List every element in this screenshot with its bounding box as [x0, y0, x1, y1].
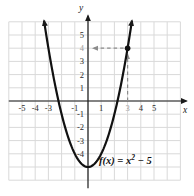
- y-tick-label: 5: [80, 30, 84, 40]
- y-tick-label: -2: [77, 122, 84, 132]
- parabola-plot: -5-4-3-1134554321-1-2-3-4 x y f(x) = x2 …: [0, 0, 194, 196]
- y-axis-label: y: [78, 3, 84, 13]
- function-graph-figure: -5-4-3-1134554321-1-2-3-4 x y f(x) = x2 …: [0, 0, 194, 196]
- x-tick-label: -3: [45, 103, 52, 113]
- y-tick-label: 1: [80, 83, 84, 93]
- tick-labels: -5-4-3-1134554321-1-2-3-4: [18, 30, 156, 159]
- x-tick-label: 5: [152, 103, 156, 113]
- y-tick-label: -4: [77, 149, 85, 159]
- y-tick-label: -3: [77, 136, 84, 146]
- x-tick-label: 4: [139, 103, 144, 113]
- x-tick-label: 1: [99, 103, 103, 113]
- x-tick-label: 3: [125, 103, 129, 113]
- equation-base: f(x) = x: [99, 155, 131, 167]
- plotted-point: [125, 45, 131, 51]
- function-equation-label: f(x) = x2 − 5: [99, 153, 152, 167]
- point-dot: [125, 45, 131, 51]
- y-tick-label: 2: [80, 70, 84, 80]
- y-tick-label: -1: [77, 109, 84, 119]
- x-axis-label: x: [182, 105, 188, 115]
- x-tick-label: -5: [18, 103, 25, 113]
- equation-tail: − 5: [135, 155, 152, 166]
- y-tick-label: 3: [80, 56, 84, 66]
- x-tick-label: -4: [32, 103, 40, 113]
